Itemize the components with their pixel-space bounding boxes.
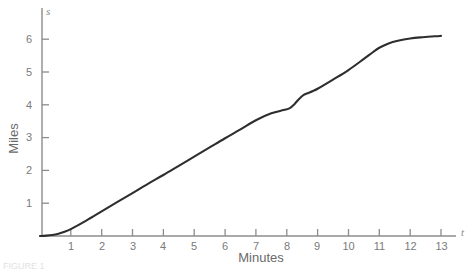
figure-caption: FIGURE 1 xyxy=(3,262,45,269)
y-axis-symbol: s xyxy=(46,6,50,17)
y-tick-label: 3 xyxy=(22,132,36,143)
x-tick-label: 5 xyxy=(184,241,204,252)
x-axis-ticks xyxy=(71,229,441,236)
y-tick-label: 6 xyxy=(22,34,36,45)
data-series-line xyxy=(40,36,441,236)
x-tick-label: 12 xyxy=(400,241,421,252)
x-axis-symbol: t xyxy=(461,227,464,238)
x-tick-label: 3 xyxy=(123,241,143,252)
chart-figure: 1 2 3 4 5 6 1 2 3 4 5 6 7 8 9 10 11 12 1… xyxy=(0,0,474,269)
x-tick-label: 4 xyxy=(153,241,173,252)
x-tick-label: 2 xyxy=(92,241,112,252)
y-tick-label: 4 xyxy=(22,100,36,111)
x-tick-label: 13 xyxy=(431,241,452,252)
x-axis-title: Minutes xyxy=(215,251,307,264)
x-tick-label: 11 xyxy=(369,241,390,252)
y-tick-label: 1 xyxy=(22,198,36,209)
x-tick-label: 9 xyxy=(307,241,327,252)
y-tick-label: 2 xyxy=(22,165,36,176)
y-axis-ticks xyxy=(42,39,49,203)
chart-plot-area xyxy=(0,0,474,269)
y-tick-label: 5 xyxy=(22,67,36,78)
x-tick-label: 10 xyxy=(338,241,359,252)
y-axis-title: Miles xyxy=(7,113,20,165)
x-tick-label: 1 xyxy=(61,241,81,252)
